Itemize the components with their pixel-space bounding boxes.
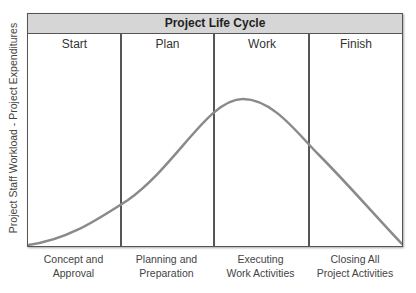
desc-line: Project Activities <box>308 266 402 280</box>
desc-line: Planning and <box>120 252 213 266</box>
desc-line: Work Activities <box>213 266 308 280</box>
desc-line: Executing <box>213 252 308 266</box>
desc-line: Preparation <box>120 266 213 280</box>
phase-description-work: Executing Work Activities <box>213 252 308 280</box>
life-cycle-frame: Project Life Cycle Start Plan Work Finis… <box>27 13 403 247</box>
desc-line: Concept and <box>27 252 120 266</box>
desc-line: Approval <box>27 266 120 280</box>
y-axis-label: Project Staff Workload - Project Expendi… <box>7 23 19 233</box>
phase-description-finish: Closing All Project Activities <box>308 252 402 280</box>
phase-description-plan: Planning and Preparation <box>120 252 213 280</box>
desc-line: Closing All <box>308 252 402 266</box>
phase-description-start: Concept and Approval <box>27 252 120 280</box>
workload-curve <box>28 14 402 246</box>
